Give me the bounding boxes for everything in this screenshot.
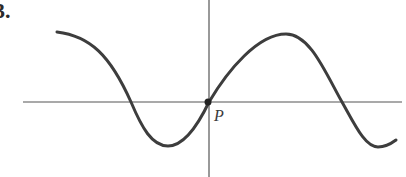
function-graph	[0, 0, 406, 177]
point-p-label: P	[214, 107, 224, 125]
function-curve	[57, 32, 396, 147]
point-p-marker	[205, 99, 212, 106]
